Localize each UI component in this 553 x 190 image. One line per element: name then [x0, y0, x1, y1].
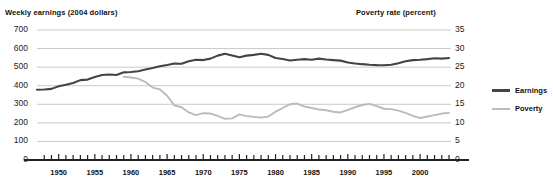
right-tick-label: 20	[455, 80, 477, 90]
legend-item-earnings[interactable]: Earnings	[492, 86, 547, 95]
left-tick-label: 400	[0, 80, 28, 90]
right-tick-label: 10	[455, 117, 477, 127]
x-tick-label: 2000	[405, 168, 435, 177]
left-tick-label: 300	[0, 98, 28, 108]
right-tick-label: 30	[455, 43, 477, 53]
legend-label: Poverty	[515, 104, 543, 113]
right-tick-label: 15	[455, 98, 477, 108]
x-tick-label: 1990	[333, 168, 363, 177]
x-tick-label: 1985	[297, 168, 327, 177]
x-tick-label: 1960	[116, 168, 146, 177]
chart-container: Weekly earnings (2004 dollars) Poverty r…	[0, 0, 553, 190]
series-line-poverty	[124, 77, 449, 119]
x-tick-label: 1965	[152, 168, 182, 177]
x-tick-label: 1980	[261, 168, 291, 177]
left-tick-label: 600	[0, 43, 28, 53]
legend-item-poverty[interactable]: Poverty	[492, 104, 543, 113]
right-tick-label: 35	[455, 24, 477, 34]
left-tick-label: 700	[0, 24, 28, 34]
left-tick-label: 200	[0, 117, 28, 127]
right-tick-label: 25	[455, 61, 477, 71]
legend-swatch-icon	[492, 89, 510, 92]
legend-swatch-icon	[492, 108, 510, 110]
legend-label: Earnings	[515, 86, 547, 95]
right-tick-label: 5	[455, 135, 477, 145]
left-tick-label: 100	[0, 135, 28, 145]
x-tick-label: 1995	[369, 168, 399, 177]
left-tick-label: 0	[0, 154, 28, 164]
x-tick-label: 1970	[188, 168, 218, 177]
right-tick-label: 0	[455, 154, 477, 164]
x-tick-label: 1955	[80, 168, 110, 177]
x-tick-label: 1975	[224, 168, 254, 177]
x-tick-label: 1950	[44, 168, 74, 177]
series-line-earnings	[37, 54, 449, 90]
left-tick-label: 500	[0, 61, 28, 71]
